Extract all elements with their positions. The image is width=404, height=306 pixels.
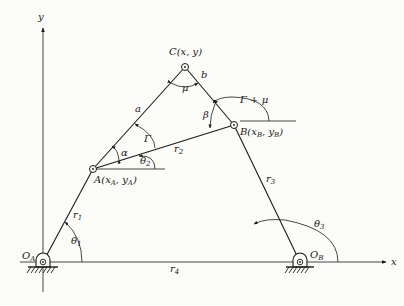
- ground-OB-label: OB: [310, 249, 323, 262]
- angle-gamma-plus-mu-label: Γ + μ: [239, 94, 268, 105]
- joint-A: [90, 166, 97, 173]
- angle-beta-label: β: [202, 109, 209, 120]
- link-b-label: b: [201, 69, 207, 80]
- link-r3: [234, 125, 300, 262]
- link-r2: [93, 125, 234, 169]
- link-r3-label: r3: [266, 173, 276, 186]
- link-b: [185, 67, 234, 125]
- angle-theta1-label: θ1: [71, 235, 82, 248]
- ground-OA-label: OA: [22, 250, 35, 263]
- link-a-label: a: [135, 103, 141, 114]
- link-r1-label: r1: [73, 209, 82, 222]
- point-C-label: C(x, y): [169, 46, 202, 57]
- x-axis-label: x: [391, 256, 397, 267]
- angle-arc-beta: [210, 104, 215, 128]
- joint-C: [182, 64, 189, 71]
- angle-arc-alpha: [112, 146, 119, 160]
- link-r4-label: r4: [170, 263, 179, 276]
- angle-theta3-label: θ3: [314, 218, 325, 231]
- point-A-label: A(xA, yA): [93, 174, 137, 187]
- angle-theta2-label: θ2: [140, 155, 151, 168]
- four-bar-linkage-diagram: y x C(x, y): [0, 0, 404, 306]
- angle-alpha-label: α: [121, 147, 128, 158]
- link-r2-label: r2: [174, 143, 184, 156]
- joint-B: [231, 122, 238, 129]
- angle-mu-label: μ: [182, 82, 189, 93]
- y-axis-label: y: [37, 11, 44, 22]
- link-a: [93, 67, 185, 169]
- point-B-label: B(xB, yB): [239, 126, 283, 139]
- link-r1: [43, 169, 93, 262]
- angle-gamma-label: Γ: [143, 133, 152, 144]
